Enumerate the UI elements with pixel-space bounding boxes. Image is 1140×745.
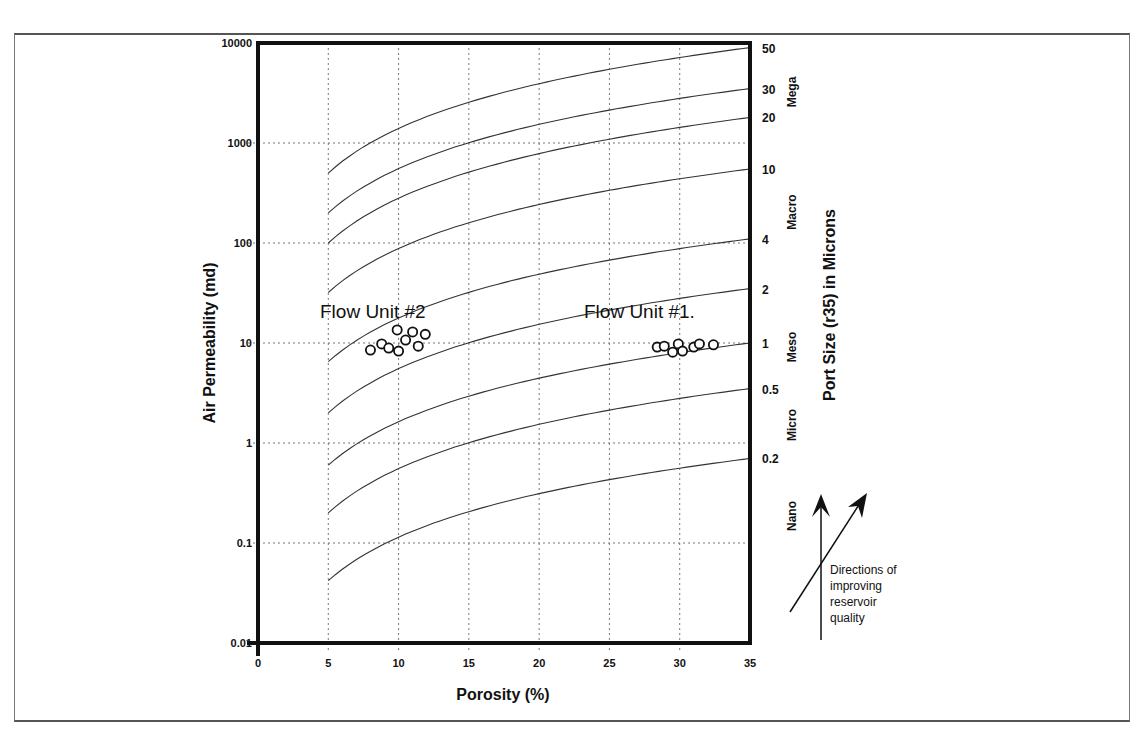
y-tick-label: 1000 — [228, 137, 252, 149]
x-tick-labels: 05101520253035 — [255, 657, 756, 669]
zone-label-mega: Mega — [785, 76, 799, 107]
arrow-up-right-icon — [848, 493, 867, 518]
x-tick-label: 20 — [533, 657, 545, 669]
y-tick-label: 0.01 — [231, 637, 252, 649]
right-axis-title: Port Size (r35) in Microns — [821, 209, 838, 401]
x-tick-label: 35 — [744, 657, 756, 669]
right-tick-label: 10 — [762, 163, 776, 177]
data-points — [366, 325, 718, 356]
x-tick-label: 0 — [255, 657, 261, 669]
right-tick-label: 2 — [762, 283, 769, 297]
right-tick-label: 50 — [762, 42, 776, 56]
flow-unit-1-point — [678, 346, 687, 355]
right-tick-label: 1 — [762, 337, 769, 351]
right-tick-labels: 503020104210.50.2 — [762, 42, 779, 467]
y-tick-label: 0.1 — [237, 537, 252, 549]
flow-unit-2-point — [414, 342, 423, 351]
zone-label-micro: Micro — [785, 409, 799, 441]
flow-unit-1-point — [709, 340, 718, 349]
flow-unit-2-point — [393, 325, 402, 334]
flow-unit-1-point — [695, 339, 704, 348]
zone-label-nano: Nano — [785, 501, 799, 531]
flow-unit-1-point — [668, 348, 677, 357]
y-tick-label: 1 — [246, 437, 252, 449]
zone-label-macro: Macro — [785, 194, 799, 229]
y-axis-title: Air Permeability (md) — [201, 263, 218, 424]
x-tick-label: 25 — [603, 657, 615, 669]
flow-unit-1-point — [660, 342, 669, 351]
right-tick-label: 30 — [762, 83, 776, 97]
flow-unit-2-point — [394, 346, 403, 355]
x-axis-title: Porosity (%) — [456, 686, 549, 703]
right-tick-label: 4 — [762, 233, 769, 247]
zone-label-meso: Meso — [785, 332, 799, 363]
y-tick-label: 10 — [240, 337, 252, 349]
flow-unit-2-label: Flow Unit #2 — [320, 301, 426, 322]
y-tick-labels: 1000010001001010.10.01 — [221, 37, 252, 649]
flow-unit-2-point — [401, 335, 410, 344]
y-tick-label: 10000 — [221, 37, 252, 49]
y-tick-label: 100 — [234, 237, 252, 249]
right-tick-label: 0.5 — [762, 383, 779, 397]
x-tick-label: 30 — [674, 657, 686, 669]
x-tick-label: 5 — [325, 657, 331, 669]
note-line-4: quality — [830, 611, 865, 625]
flow-unit-1-label: Flow Unit #1. — [584, 301, 695, 322]
chart: 05101520253035 1000010001001010.10.01 50… — [0, 0, 1140, 745]
x-tick-label: 15 — [463, 657, 475, 669]
note-line-1: Directions of — [830, 563, 897, 577]
right-tick-label: 20 — [762, 111, 776, 125]
note-line-2: improving — [830, 579, 882, 593]
flow-unit-2-point — [384, 343, 393, 352]
flow-unit-2-point — [366, 345, 375, 354]
x-tick-label: 10 — [392, 657, 404, 669]
flow-unit-2-point — [421, 330, 430, 339]
right-tick-label: 0.2 — [762, 452, 779, 466]
note-line-3: reservoir — [830, 595, 877, 609]
flow-unit-2-point — [408, 327, 417, 336]
